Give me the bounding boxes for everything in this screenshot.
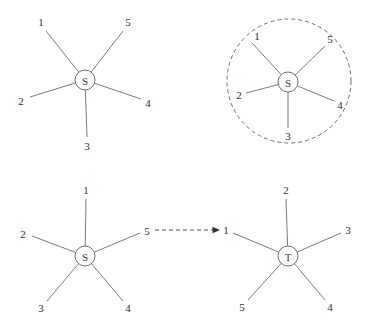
- leaf-label-3: 3: [345, 224, 351, 236]
- edge-s-4: [91, 264, 123, 301]
- edge-s-2: [30, 83, 75, 97]
- mapping-arrow-group: [155, 227, 220, 233]
- edge-s-5: [295, 46, 325, 75]
- leaf-label-1: 1: [254, 30, 260, 42]
- diagram-root: S 1 2 3 4 5 S 1 2 3 4 5: [0, 0, 371, 331]
- edge-s-4: [94, 83, 141, 99]
- leaf-label-3: 3: [285, 130, 291, 142]
- edge-t-3: [297, 233, 341, 252]
- leaf-label-2: 2: [236, 89, 242, 101]
- edge-s-5: [94, 233, 140, 252]
- leaf-label-3: 3: [38, 302, 44, 314]
- edge-s-2: [246, 85, 278, 93]
- leaf-label-1: 1: [38, 16, 44, 28]
- edge-s-1: [85, 199, 86, 246]
- leaf-label-5: 5: [327, 33, 333, 45]
- edge-s-5: [91, 31, 123, 72]
- leaf-label-2: 2: [18, 95, 24, 107]
- panel-bottom-right: T 2 3 4 5 1: [223, 184, 351, 313]
- leaf-label-5: 5: [125, 16, 131, 28]
- leaf-label-4: 4: [125, 302, 131, 314]
- diagram-canvas: S 1 2 3 4 5 S 1 2 3 4 5: [0, 0, 371, 331]
- leaf-label-5: 5: [144, 225, 150, 237]
- leaf-label-3: 3: [84, 140, 90, 152]
- leaf-label-5: 5: [239, 301, 245, 313]
- edge-s-1: [46, 31, 79, 72]
- edge-t-1: [233, 233, 279, 252]
- edge-s-1: [252, 43, 281, 75]
- edge-t-5: [248, 263, 281, 300]
- edge-t-2: [286, 199, 288, 246]
- edge-t-4: [294, 264, 325, 300]
- leaf-label-4: 4: [145, 97, 151, 109]
- leaf-label-1: 1: [223, 224, 229, 236]
- leaf-label-2: 2: [283, 184, 289, 196]
- leaf-label-4: 4: [337, 99, 343, 111]
- panel-top-right: S 1 2 3 4 5: [227, 19, 351, 143]
- center-node-label: S: [285, 77, 291, 89]
- arrow-head-icon: [213, 227, 221, 233]
- edge-s-4: [297, 86, 334, 101]
- leaf-label-4: 4: [327, 301, 333, 313]
- leaf-label-1: 1: [83, 184, 89, 196]
- edge-s-2: [32, 236, 76, 252]
- center-node-label: T: [285, 251, 292, 263]
- leaf-label-2: 2: [20, 228, 26, 240]
- panel-bottom-left: S 1 2 3 4 5: [20, 184, 150, 314]
- panel-top-left: S 1 2 3 4 5: [18, 16, 151, 152]
- edge-s-3: [85, 90, 87, 137]
- center-node-label: S: [82, 251, 88, 263]
- edge-s-3: [47, 264, 79, 301]
- center-node-label: S: [82, 75, 88, 87]
